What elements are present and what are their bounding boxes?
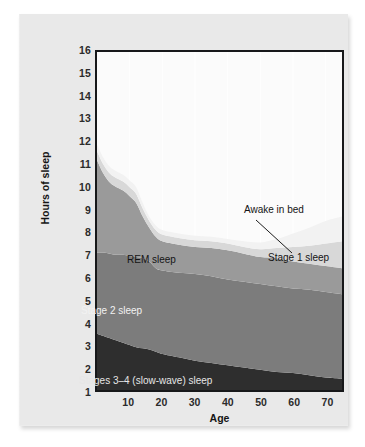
y-tick-6: 6 <box>85 272 91 284</box>
x-tick-40: 40 <box>222 396 234 408</box>
y-tick-16: 16 <box>79 44 91 56</box>
y-axis-title: Hours of sleep <box>39 133 51 243</box>
y-tick-7: 7 <box>85 249 91 261</box>
x-tick-50: 50 <box>255 396 267 408</box>
x-tick-30: 30 <box>189 396 201 408</box>
y-tick-10: 10 <box>79 181 91 193</box>
y-tick-4: 4 <box>85 318 91 330</box>
x-tick-60: 60 <box>288 396 300 408</box>
y-tick-1: 1 <box>85 386 91 398</box>
y-tick-2: 2 <box>85 363 91 375</box>
y-tick-12: 12 <box>79 135 91 147</box>
stacked-area-chart <box>97 52 342 390</box>
area-bands <box>97 144 342 390</box>
y-tick-11: 11 <box>80 158 91 170</box>
plot-area <box>95 50 344 392</box>
x-axis-tick-labels: 10203040506070 <box>95 396 344 412</box>
figure-card: 16151413121110987654321 Hours of sleep A… <box>19 14 348 426</box>
y-tick-9: 9 <box>85 204 91 216</box>
x-tick-70: 70 <box>322 396 334 408</box>
x-axis-title: Age <box>95 412 344 424</box>
y-tick-3: 3 <box>85 340 91 352</box>
label-stages-3-4-sleep: Stages 3–4 (slow-wave) sleep <box>79 375 212 386</box>
label-rem-sleep: REM sleep <box>127 254 176 265</box>
y-tick-13: 13 <box>79 112 91 124</box>
y-axis-tick-labels: 16151413121110987654321 <box>59 50 91 392</box>
x-tick-10: 10 <box>122 396 134 408</box>
x-tick-20: 20 <box>156 396 168 408</box>
y-tick-8: 8 <box>85 226 91 238</box>
label-stage-1-sleep: Stage 1 sleep <box>268 252 329 263</box>
label-awake-in-bed: Awake in bed <box>244 204 304 215</box>
y-tick-15: 15 <box>79 67 91 79</box>
y-tick-14: 14 <box>79 90 91 102</box>
label-stage-2-sleep: Stage 2 sleep <box>81 305 142 316</box>
